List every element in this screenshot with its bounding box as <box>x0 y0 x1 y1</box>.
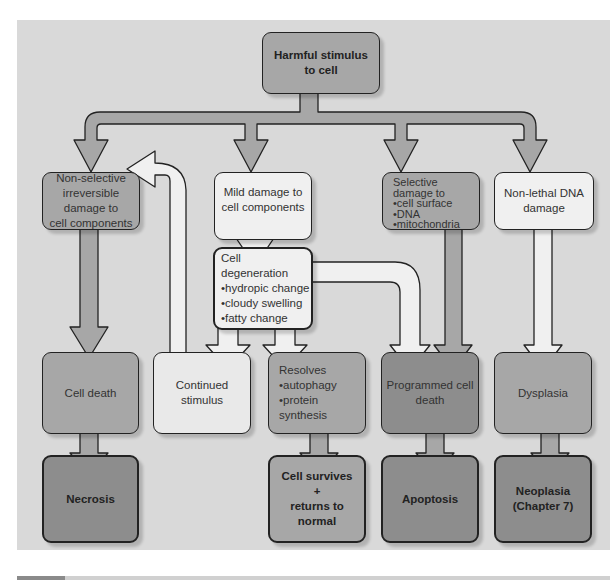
node-continued-stimulus: Continued stimulus <box>153 352 251 434</box>
node-mild-damage: Mild damage to cell components <box>214 172 312 240</box>
node-cell-survives: Cell survives + returns to normal <box>268 455 366 543</box>
node-harmful-stimulus: Harmful stimulus to cell <box>262 32 380 94</box>
node-label: Resolves •autophagy •protein synthesis <box>279 363 337 423</box>
node-label: Selective damage to •cell surface •DNA •… <box>393 177 460 230</box>
caption-label-block <box>17 576 65 580</box>
caption-strip <box>17 576 610 580</box>
node-label: Mild damage to cell components <box>221 185 304 215</box>
node-label: Non-lethal DNA damage <box>504 186 584 216</box>
node-label: Cell death <box>65 386 117 401</box>
node-necrosis: Necrosis <box>42 455 139 543</box>
node-label: Non-selective irreversible damage to cel… <box>49 171 132 231</box>
node-label: Programmed cell death <box>387 378 474 408</box>
node-dysplasia: Dysplasia <box>494 352 592 434</box>
node-apoptosis: Apoptosis <box>381 455 479 543</box>
node-label: Dysplasia <box>518 386 568 401</box>
node-resolves: Resolves •autophagy •protein synthesis <box>268 352 366 434</box>
node-cell-degeneration: Cell degeneration •hydropic change •clou… <box>213 247 313 330</box>
node-label: Neoplasia (Chapter 7) <box>513 484 574 514</box>
arrow-selective-to-programmed <box>434 217 472 370</box>
node-nonlethal-dna-damage: Non-lethal DNA damage <box>494 172 594 230</box>
node-label: Cell survives + returns to normal <box>282 469 353 529</box>
node-cell-death: Cell death <box>42 352 139 434</box>
node-neoplasia: Neoplasia (Chapter 7) <box>494 455 592 543</box>
node-nonselective-damage: Non-selective irreversible damage to cel… <box>42 172 140 230</box>
node-label: Necrosis <box>66 492 115 507</box>
arrow-nonlethal-to-dysplasia <box>524 217 562 370</box>
node-programmed-cell-death: Programmed cell death <box>381 352 479 434</box>
node-label: Continued stimulus <box>176 378 228 408</box>
arrow-nonselective-to-celldeath <box>70 227 108 358</box>
node-label: Cell degeneration •hydropic change •clou… <box>221 251 311 326</box>
node-label: Apoptosis <box>402 492 458 507</box>
node-label: Harmful stimulus to cell <box>274 48 368 78</box>
node-selective-damage: Selective damage to •cell surface •DNA •… <box>382 172 480 230</box>
